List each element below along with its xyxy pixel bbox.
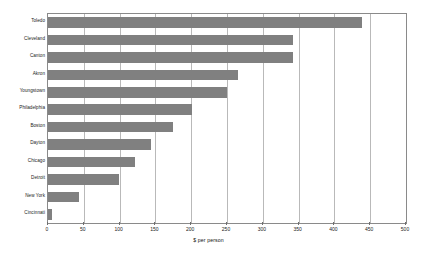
category-label: Cleveland (1, 37, 45, 42)
bar[interactable] (48, 17, 362, 28)
category-label: Detroit (1, 176, 45, 181)
category-label: New York (1, 194, 45, 199)
axis-tick (47, 222, 48, 225)
category-label: Cincinnati (1, 211, 45, 216)
axis-tick-label: 450 (365, 227, 373, 232)
bar[interactable] (48, 209, 52, 220)
bar[interactable] (48, 157, 135, 168)
category-axis-labels: ToledoClevelandCantonAkronYoungstownPhil… (0, 13, 45, 222)
bar-row (48, 84, 406, 101)
axis-tick-label: 400 (329, 227, 337, 232)
bar-row (48, 66, 406, 83)
category-label: Chicago (1, 159, 45, 164)
axis-tick-label: 300 (258, 227, 266, 232)
axis-tick-label: 0 (46, 227, 49, 232)
bar-row (48, 119, 406, 136)
axis-tick (298, 222, 299, 225)
bar-row (48, 171, 406, 188)
axis-tick (405, 222, 406, 225)
bar-row (48, 49, 406, 66)
bar-row (48, 14, 406, 31)
bar-row (48, 188, 406, 205)
axis-tick-label: 500 (401, 227, 409, 232)
category-label: Canton (1, 54, 45, 59)
bar-chart: ToledoClevelandCantonAkronYoungstownPhil… (0, 0, 423, 255)
axis-tick-label: 100 (114, 227, 122, 232)
bar-row (48, 153, 406, 170)
bar-row (48, 101, 406, 118)
category-label: Youngstown (1, 89, 45, 94)
bar[interactable] (48, 192, 79, 203)
x-axis-title: $ per person (0, 237, 423, 243)
bar-row (48, 136, 406, 153)
bar[interactable] (48, 139, 151, 150)
category-label: Dayton (1, 141, 45, 146)
axis-tick (369, 222, 370, 225)
bar-row (48, 31, 406, 48)
axis-tick (119, 222, 120, 225)
bar-row (48, 206, 406, 223)
plot-area (47, 13, 407, 224)
category-label: Boston (1, 124, 45, 129)
axis-tick-label: 150 (150, 227, 158, 232)
axis-tick-label: 50 (80, 227, 86, 232)
axis-tick (154, 222, 155, 225)
bar[interactable] (48, 104, 192, 115)
bar[interactable] (48, 35, 293, 46)
bar[interactable] (48, 70, 238, 81)
bar[interactable] (48, 174, 119, 185)
axis-tick (83, 222, 84, 225)
axis-tick (262, 222, 263, 225)
bar[interactable] (48, 122, 173, 133)
axis-tick-label: 200 (186, 227, 194, 232)
axis-tick (190, 222, 191, 225)
bar[interactable] (48, 87, 227, 98)
axis-tick (333, 222, 334, 225)
axis-tick (226, 222, 227, 225)
category-label: Toledo (1, 19, 45, 24)
bar[interactable] (48, 52, 293, 63)
category-label: Philadelphia (1, 106, 45, 111)
axis-tick-label: 350 (293, 227, 301, 232)
category-label: Akron (1, 72, 45, 77)
axis-tick-label: 250 (222, 227, 230, 232)
x-axis-title-text: $ per person (193, 237, 223, 243)
